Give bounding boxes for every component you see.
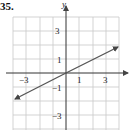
y-tick-neg1: −1 [52, 84, 62, 93]
y-tick-1: 1 [57, 56, 62, 65]
x-tick-3: 3 [103, 76, 108, 85]
x-tick-neg3: −3 [19, 76, 29, 85]
y-axis-label: y [62, 0, 66, 9]
y-tick-3: 3 [55, 27, 60, 36]
y-tick-neg3: −3 [52, 112, 62, 121]
graph-line [66, 47, 118, 73]
axes [6, 6, 128, 130]
coordinate-plot [0, 0, 134, 130]
x-tick-1: 1 [77, 76, 82, 85]
